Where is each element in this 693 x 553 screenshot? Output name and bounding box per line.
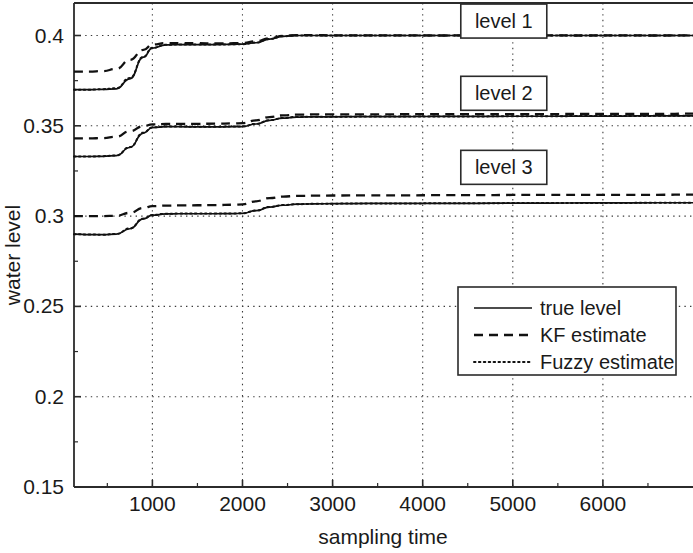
x-axis-title: sampling time bbox=[318, 525, 448, 548]
y-tick-label: 0.15 bbox=[23, 475, 64, 498]
chart-figure: 100020003000400050006000 0.150.20.250.30… bbox=[0, 0, 693, 553]
x-tick-label: 6000 bbox=[580, 492, 627, 515]
annotation-box: level 3 bbox=[461, 150, 547, 184]
annotation-label: level 2 bbox=[475, 82, 533, 104]
y-tick-label: 0.3 bbox=[35, 204, 64, 227]
y-tick-label: 0.25 bbox=[23, 294, 64, 317]
y-tick-label: 0.2 bbox=[35, 385, 64, 408]
x-tick-label: 5000 bbox=[489, 492, 536, 515]
water-level-line-chart: 100020003000400050006000 0.150.20.250.30… bbox=[0, 0, 693, 553]
y-axis-title: water level bbox=[1, 205, 24, 306]
annotation-box: level 2 bbox=[461, 76, 547, 110]
legend-label: Fuzzy estimate bbox=[540, 351, 674, 373]
x-tick-label: 4000 bbox=[399, 492, 446, 515]
annotation-label: level 1 bbox=[475, 10, 533, 32]
y-tick-label: 0.35 bbox=[23, 114, 64, 137]
chart-legend: true levelKF estimateFuzzy estimate bbox=[458, 287, 676, 375]
x-tick-label: 1000 bbox=[129, 492, 176, 515]
annotation-box: level 1 bbox=[461, 4, 547, 38]
level-annotations: level 1level 2level 3 bbox=[461, 4, 547, 184]
annotation-label: level 3 bbox=[475, 156, 533, 178]
figure-background bbox=[0, 0, 693, 553]
legend-label: true level bbox=[540, 297, 621, 319]
x-tick-label: 3000 bbox=[309, 492, 356, 515]
x-tick-label: 2000 bbox=[219, 492, 266, 515]
y-tick-label: 0.4 bbox=[35, 24, 65, 47]
legend-label: KF estimate bbox=[540, 324, 647, 346]
